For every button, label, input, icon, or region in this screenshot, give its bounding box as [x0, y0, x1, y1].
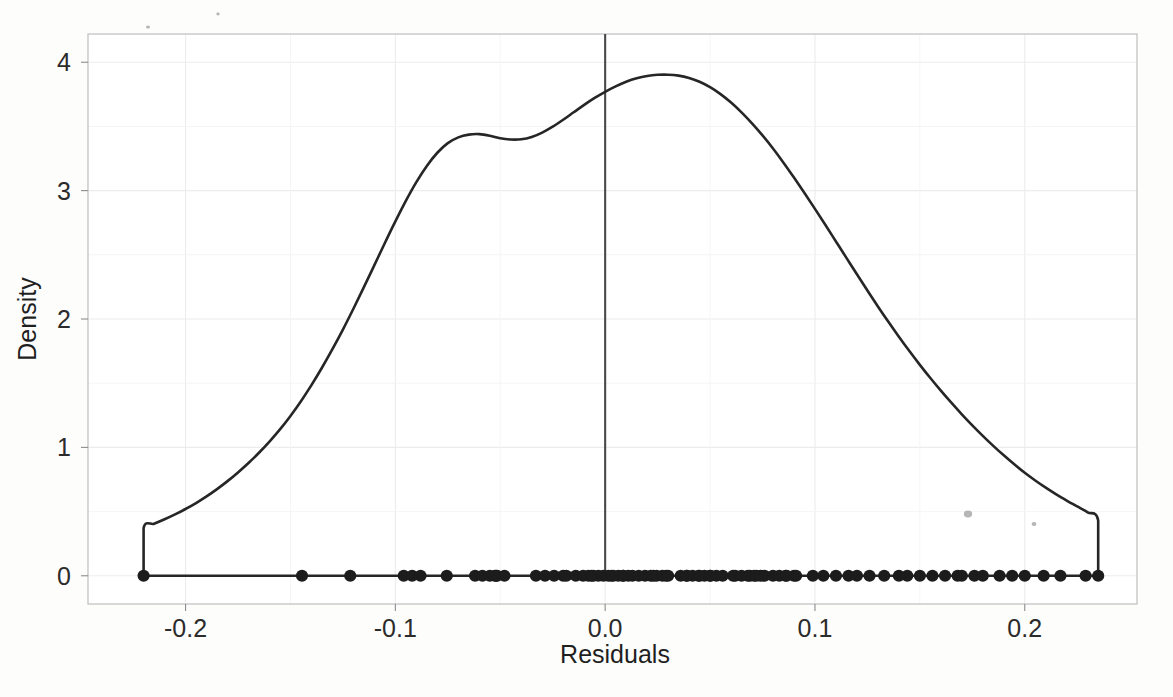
x-axis-tick-labels: -0.2-0.10.00.10.2	[164, 614, 1042, 642]
x-tick-label-4: 0.2	[1007, 614, 1042, 642]
rug-point	[939, 570, 951, 582]
rug-point	[817, 570, 829, 582]
rug-point	[993, 570, 1005, 582]
rug-point	[717, 570, 729, 582]
y-tick-label-1: 1	[57, 433, 71, 461]
rug-point	[914, 570, 926, 582]
rug-point	[977, 570, 989, 582]
x-tick-label-2: 0.0	[588, 614, 623, 642]
x-tick-label-3: 0.1	[798, 614, 833, 642]
y-tick-label-0: 0	[57, 562, 71, 590]
rug-point	[807, 570, 819, 582]
rug-point	[851, 570, 863, 582]
x-axis-title: Residuals	[560, 640, 670, 668]
rug-point	[878, 570, 890, 582]
scan-speck-1	[964, 511, 972, 518]
rug-point	[830, 570, 842, 582]
rug-point	[296, 570, 308, 582]
x-tick-label-0: -0.2	[164, 614, 207, 642]
rug-point	[1054, 570, 1066, 582]
y-tick-label-4: 4	[57, 48, 71, 76]
rug-point	[662, 570, 674, 582]
rug-point	[1019, 570, 1031, 582]
clipped-caption-ghost	[300, 682, 900, 697]
rug-point	[926, 570, 938, 582]
y-axis-title: Density	[13, 277, 41, 361]
residual-density-figure: -0.2-0.10.00.10.2 01234 Residuals Densit…	[0, 0, 1173, 697]
rug-point	[863, 570, 875, 582]
rug-point	[1092, 570, 1104, 582]
rug-point	[901, 570, 913, 582]
x-tick-label-1: -0.1	[374, 614, 417, 642]
scan-speck-4	[216, 13, 219, 16]
rug-point	[1006, 570, 1018, 582]
y-tick-label-3: 3	[57, 177, 71, 205]
y-axis-tick-labels: 01234	[57, 48, 71, 590]
rug-point	[498, 570, 510, 582]
density-plot-canvas: -0.2-0.10.00.10.2 01234 Residuals Densit…	[0, 0, 1173, 697]
rug-point	[441, 570, 453, 582]
scan-speck-3	[146, 25, 150, 28]
scan-speck-2	[1032, 522, 1037, 526]
y-tick-label-2: 2	[57, 305, 71, 333]
rug-point	[344, 570, 356, 582]
rug-point	[1079, 570, 1091, 582]
rug-point	[956, 570, 968, 582]
rug-point	[414, 570, 426, 582]
rug-point	[1038, 570, 1050, 582]
rug-point	[790, 570, 802, 582]
rug-point	[137, 570, 149, 582]
